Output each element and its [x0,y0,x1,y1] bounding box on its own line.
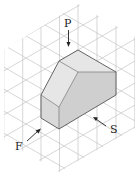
side-label: S [110,123,118,136]
side-face-upper [78,72,116,95]
isometric-solid [41,50,116,129]
front-label: F [15,140,23,153]
front-view-indicator: F [15,129,41,154]
isometric-figure: P F S [0,0,137,176]
plan-label: P [64,17,72,30]
front-arrow-shaft [27,131,38,141]
plan-arrow-head-icon [67,42,71,47]
